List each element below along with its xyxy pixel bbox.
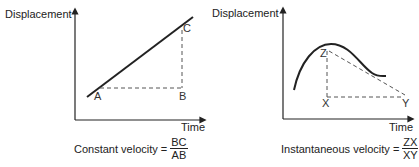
constant-velocity-graph: Displacement Time A B C: [5, 8, 205, 133]
numerator: ZX: [402, 136, 418, 149]
x-axis-label: Time: [389, 121, 413, 133]
denominator: XY: [403, 149, 418, 161]
formula-lhs: Constant velocity =: [74, 143, 167, 155]
point-z-label: Z: [320, 47, 327, 59]
instantaneous-velocity-formula: Instantaneous velocity = ZX XY: [281, 136, 418, 161]
y-axis-label: Displacement: [5, 8, 72, 20]
fraction: ZX XY: [402, 136, 418, 161]
x-axis-label: Time: [181, 121, 205, 133]
displacement-line: [87, 17, 193, 97]
instantaneous-velocity-graph: Displacement Time X Y Z: [212, 7, 413, 133]
y-axis-label: Displacement: [212, 7, 279, 19]
point-c-label: C: [183, 22, 191, 34]
point-x-label: X: [322, 97, 330, 109]
constant-velocity-formula: Constant velocity = BC AB: [74, 136, 188, 161]
dashed-tangent: [329, 51, 405, 95]
point-b-label: B: [179, 90, 186, 102]
displacement-curve: [294, 44, 386, 90]
point-a-label: A: [94, 90, 102, 102]
fraction: BC AB: [170, 136, 187, 161]
formula-lhs: Instantaneous velocity =: [281, 143, 399, 155]
numerator: BC: [170, 136, 187, 149]
denominator: AB: [172, 149, 187, 161]
point-y-label: Y: [402, 97, 410, 109]
